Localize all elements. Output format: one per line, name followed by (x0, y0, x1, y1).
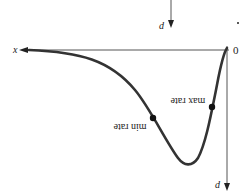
min-rate-label: min rate (113, 122, 147, 133)
arrow-down-icon (168, 20, 174, 28)
top-arrow-label: d (159, 20, 165, 31)
max-rate-label: max rate (170, 96, 205, 107)
min-rate-marker (150, 115, 156, 121)
arrow-down-icon (224, 183, 230, 191)
max-rate-marker (209, 104, 215, 110)
vertical-axis (224, 46, 230, 191)
arrow-left-icon (19, 47, 28, 53)
vertical-axis-label: d (215, 179, 221, 190)
rate-diagram: x 0 d d min rate max rate (0, 0, 239, 194)
top-arrow (168, 0, 174, 28)
origin-label: 0 (233, 44, 239, 56)
dot-mark (237, 22, 239, 24)
x-axis-label: x (12, 44, 18, 55)
